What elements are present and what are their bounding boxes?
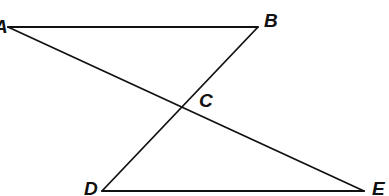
label-point-c: C bbox=[199, 90, 213, 111]
geometry-diagram: A B C D E bbox=[0, 0, 389, 196]
label-point-d: D bbox=[84, 178, 98, 196]
label-point-e: E bbox=[372, 178, 386, 196]
segment-bd bbox=[102, 27, 258, 191]
label-point-b: B bbox=[264, 10, 278, 31]
label-point-a: A bbox=[0, 16, 8, 37]
segment-ae bbox=[8, 27, 364, 191]
